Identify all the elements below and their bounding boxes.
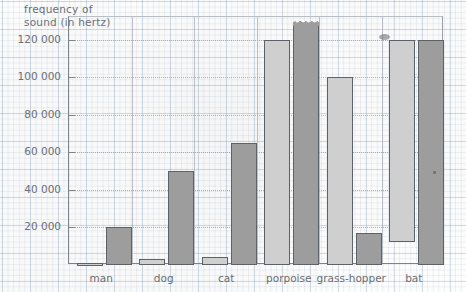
y-axis-tick — [69, 115, 75, 116]
group-separator — [194, 17, 195, 263]
y-axis-tick-label: 120 000 — [0, 33, 69, 45]
bar-grass-hopper-high — [356, 233, 382, 265]
pencil-smudge — [379, 34, 390, 40]
bar-cat-high — [231, 143, 257, 265]
group-separator — [382, 17, 383, 263]
y-axis-tick — [69, 190, 75, 191]
group-separator — [132, 17, 133, 263]
y-axis-tick-label: 100 000 — [0, 70, 69, 82]
y-axis-tick-label: 60 000 — [0, 145, 69, 157]
y-axis-tick-label: 80 000 — [0, 108, 69, 120]
group-separator — [257, 17, 258, 263]
bar-man-high — [106, 227, 132, 265]
bar-porpoise-low — [264, 40, 290, 265]
pencil-dot — [433, 171, 436, 174]
gridline — [69, 115, 442, 116]
bar-bat-high — [418, 40, 444, 265]
x-axis-label-man: man — [90, 272, 113, 284]
bar-porpoise-high — [293, 25, 319, 265]
group-separator — [319, 17, 320, 263]
y-axis-tick-label: 40 000 — [0, 183, 69, 195]
x-axis-label-porpoise: porpoise — [266, 272, 311, 284]
x-axis-label-cat: cat — [218, 272, 234, 284]
bar-grass-hopper-low — [327, 77, 353, 265]
bar-dog-high — [168, 171, 194, 265]
x-axis-label-bat: bat — [405, 272, 422, 284]
y-axis-tick-label: 20 000 — [0, 220, 69, 232]
bar-bat-low — [389, 40, 415, 243]
plot-area: 20 00040 00060 00080 000100 000120 000 — [68, 16, 443, 264]
y-axis-tick — [69, 227, 75, 228]
bar-man-low — [77, 263, 103, 266]
y-axis-tick — [69, 152, 75, 153]
bar-chart: frequency of sound (in hertz) 20 00040 0… — [0, 0, 466, 292]
y-axis-tick — [69, 40, 75, 41]
bar-dog-low — [139, 259, 165, 265]
x-axis-label-grass-hopper: grass-hopper — [317, 272, 386, 284]
gridline — [69, 77, 442, 78]
y-axis-tick — [69, 77, 75, 78]
x-axis-label-dog: dog — [154, 272, 174, 284]
bar-cat-low — [202, 257, 228, 265]
